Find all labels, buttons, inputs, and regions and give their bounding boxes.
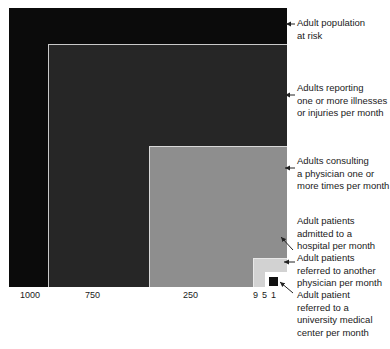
axis-tick-1: 1 bbox=[271, 290, 276, 301]
axis-tick-750: 750 bbox=[85, 290, 100, 301]
callout-adult-referred-university: Adult patient referred to a university m… bbox=[297, 289, 373, 339]
chart-canvas: 1000 750 250 9 5 1 Adult population at r… bbox=[0, 0, 390, 349]
axis-tick-1000: 1000 bbox=[20, 290, 40, 301]
callout-adults-admitted-hospital: Adult patients admitted to a hospital pe… bbox=[297, 215, 375, 253]
callout-adults-consulting-physician: Adults consulting a physician one or mor… bbox=[297, 155, 389, 193]
axis-tick-250: 250 bbox=[183, 290, 198, 301]
callout-adult-population-at-risk: Adult population at risk bbox=[297, 17, 365, 42]
axis-tick-5: 5 bbox=[262, 290, 267, 301]
callout-adults-referred-physician: Adult patients referred to another physi… bbox=[297, 252, 382, 290]
axis-tick-9: 9 bbox=[253, 290, 258, 301]
callout-adults-reporting-illness: Adults reporting one or more illnesses o… bbox=[297, 82, 387, 120]
rect-adult-university bbox=[269, 277, 278, 286]
